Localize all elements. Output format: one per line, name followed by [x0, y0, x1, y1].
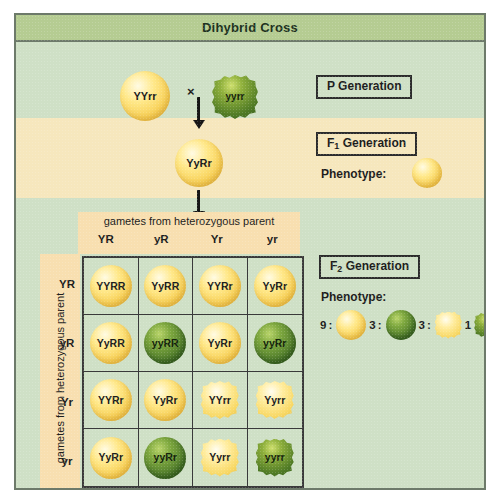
punnett-row-header-2: Yr — [56, 372, 78, 431]
f1-generation-label-text: Generation — [343, 136, 406, 150]
f2-ratio-count-1: 3 — [369, 319, 375, 331]
punnett-cell-r2-c2: YYrr — [193, 372, 248, 429]
punnett-column-headers: YRyRYryr — [78, 233, 300, 245]
punnett-cell-r0-c0: YYRR — [84, 258, 139, 315]
f1-generation-band — [16, 118, 484, 198]
f2-phenotype-ratio: 9:3:3:1 — [319, 308, 486, 342]
punnett-cell-r3-c0: YyRr — [84, 429, 139, 486]
p-generation-label-box: P Generation — [316, 75, 412, 99]
punnett-seed-yyrr-r0-c1: YyRR — [144, 265, 186, 307]
p-generation-label: P Generation — [327, 79, 401, 93]
punnett-cell-r0-c1: YyRR — [139, 258, 194, 315]
p-parent-b-seed: yyrr — [212, 75, 258, 119]
punnett-column-header-3: yr — [245, 233, 301, 245]
f2-ratio-separator-1: : — [378, 319, 382, 331]
gametes-side-strip: gametes from heterozygous parent YRyRYry… — [40, 254, 80, 490]
punnett-seed-yyrr-r3-c0: YyRr — [90, 437, 132, 479]
punnett-cell-r2-c3: Yyrr — [248, 372, 303, 429]
punnett-seed-yyrr-r1-c1: yyRR — [144, 322, 186, 364]
punnett-row-header-0: YR — [56, 254, 78, 313]
punnett-seed-yyrr-r3-c1: yyRr — [144, 437, 186, 479]
f2-ratio-seed-2 — [435, 312, 462, 339]
f1-generation-label-subscript: 1 — [334, 141, 339, 151]
punnett-cell-r3-c1: yyRr — [139, 429, 194, 486]
punnett-seed-yyrr-r2-c0: YYRr — [90, 379, 132, 421]
punnett-seed-yyrr-r1-c3: yyRr — [254, 322, 296, 364]
punnett-cell-r1-c0: YyRR — [84, 315, 139, 372]
figure-panel: Dihybrid Cross YYrr × yyrr P Generation … — [14, 13, 486, 490]
f2-ratio-count-0: 9 — [320, 319, 326, 331]
punnett-seed-yyrr-r2-c1: YyRr — [144, 379, 186, 421]
punnett-cell-r1-c2: YyRr — [193, 315, 248, 372]
arrow-f1-to-f2-icon — [197, 190, 200, 212]
punnett-seed-yyrr-r1-c2: YyRr — [199, 322, 241, 364]
gametes-top-caption: gametes from heterozygous parent — [78, 215, 300, 227]
f2-generation-label-text: Generation — [346, 259, 409, 273]
f1-phenotype-seed — [412, 158, 442, 188]
punnett-column-header-1: yR — [134, 233, 190, 245]
f1-generation-label-box: F1 Generation — [316, 132, 417, 156]
f2-ratio-seed-0 — [336, 310, 366, 340]
punnett-cell-r1-c1: yyRR — [139, 315, 194, 372]
dihybrid-cross-figure: Dihybrid Cross YYrr × yyrr P Generation … — [0, 0, 501, 504]
punnett-cell-r0-c2: YYRr — [193, 258, 248, 315]
f2-ratio-count-3: 1 — [465, 319, 471, 331]
punnett-row-header-3: yr — [56, 431, 78, 490]
punnett-seed-yyrr-r1-c0: YyRR — [90, 322, 132, 364]
f1-phenotype-label: Phenotype: — [321, 167, 386, 181]
punnett-column-header-0: YR — [78, 233, 134, 245]
punnett-seed-yyrr-r3-c3: yyrr — [256, 439, 294, 477]
punnett-cell-r3-c3: yyrr — [248, 429, 303, 486]
f2-ratio-count-2: 3 — [419, 319, 425, 331]
punnett-seed-yyrr-r3-c2: Yyrr — [201, 439, 239, 477]
punnett-cell-r3-c2: Yyrr — [193, 429, 248, 486]
f2-ratio-separator-0: : — [328, 319, 332, 331]
punnett-square: YYRRYyRRYYRrYyRrYyRRyyRRYyRryyRrYYRrYyRr… — [82, 256, 304, 488]
f2-generation-label-box: F2 Generation — [319, 255, 420, 279]
punnett-seed-yyrr-r2-c3: Yyrr — [256, 381, 294, 419]
gametes-top-strip: gametes from heterozygous parent YRyRYry… — [78, 212, 300, 254]
punnett-row-headers: YRyRYryr — [56, 254, 78, 490]
f2-generation-label-subscript: 2 — [337, 264, 342, 274]
punnett-seed-yyrr-r0-c3: YyRr — [254, 265, 296, 307]
punnett-cell-r2-c0: YYRr — [84, 372, 139, 429]
punnett-cell-r0-c3: YyRr — [248, 258, 303, 315]
punnett-seed-yyrr-r0-c2: YYRr — [199, 265, 241, 307]
punnett-column-header-2: Yr — [189, 233, 245, 245]
arrow-p-to-f1-icon — [197, 97, 200, 121]
punnett-row-header-1: yR — [56, 313, 78, 372]
f1-offspring-seed: YyRr — [175, 139, 223, 187]
f2-ratio-seed-3 — [474, 313, 486, 338]
cross-symbol: × — [187, 84, 195, 99]
f2-ratio-seed-1 — [386, 310, 416, 340]
punnett-cell-r1-c3: yyRr — [248, 315, 303, 372]
punnett-cell-r2-c1: YyRr — [139, 372, 194, 429]
figure-title: Dihybrid Cross — [202, 20, 298, 35]
punnett-seed-yyrr-r0-c0: YYRR — [90, 265, 132, 307]
punnett-seed-yyrr-r2-c2: YYrr — [201, 381, 239, 419]
f2-ratio-separator-2: : — [427, 319, 431, 331]
f2-phenotype-label: Phenotype: — [321, 290, 386, 304]
figure-title-bar: Dihybrid Cross — [16, 15, 484, 42]
p-parent-a-seed: YYrr — [120, 71, 170, 121]
